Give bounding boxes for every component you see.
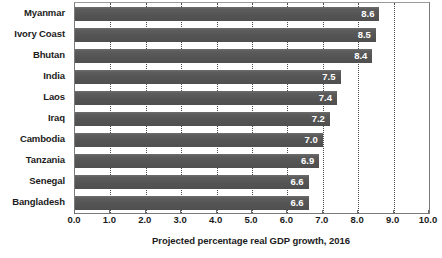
x-tick-label: 4.0 <box>209 214 222 225</box>
category-label: Bangladesh <box>0 191 70 212</box>
bar-value-label: 6.9 <box>301 156 319 166</box>
bar-value-label: 6.6 <box>290 177 308 187</box>
bar-row: 7.5 <box>75 66 429 87</box>
bar-row: 8.6 <box>75 3 429 24</box>
bar-row: 8.5 <box>75 24 429 45</box>
bar-row: 7.0 <box>75 129 429 150</box>
bar: 7.0 <box>75 133 323 147</box>
bar: 8.4 <box>75 49 372 63</box>
bar-row: 7.4 <box>75 87 429 108</box>
category-label: Bhutan <box>0 44 70 65</box>
category-label: Laos <box>0 86 70 107</box>
x-tick-label: 2.0 <box>138 214 151 225</box>
bar: 6.6 <box>75 196 309 210</box>
bar-row: 6.6 <box>75 171 429 192</box>
x-tick-label: 7.0 <box>315 214 328 225</box>
x-tick-label: 6.0 <box>280 214 293 225</box>
bar: 6.9 <box>75 154 319 168</box>
category-label: Tanzania <box>0 149 70 170</box>
category-label: Cambodia <box>0 128 70 149</box>
x-tick-label: 1.0 <box>103 214 116 225</box>
x-tick-label: 9.0 <box>386 214 399 225</box>
x-tick-label: 0.0 <box>67 214 80 225</box>
bar-row: 6.9 <box>75 150 429 171</box>
bar: 8.6 <box>75 7 379 21</box>
bar: 8.5 <box>75 28 376 42</box>
category-axis: MyanmarIvory CoastBhutanIndiaLaosIraqCam… <box>0 2 70 212</box>
plot-inner: 8.68.58.47.57.47.27.06.96.66.6 <box>75 3 429 213</box>
x-axis: 0.01.02.03.04.05.06.07.08.09.010.0 <box>74 214 428 230</box>
category-label: India <box>0 65 70 86</box>
bar-rows: 8.68.58.47.57.47.27.06.96.66.6 <box>75 3 429 213</box>
plot-area: 8.68.58.47.57.47.27.06.96.66.6 <box>74 2 430 214</box>
bar-value-label: 7.2 <box>312 114 330 124</box>
bar-value-label: 8.4 <box>354 51 372 61</box>
x-tick-label: 3.0 <box>174 214 187 225</box>
bar-value-label: 7.4 <box>319 93 337 103</box>
bar-value-label: 8.6 <box>361 9 379 19</box>
bar: 7.5 <box>75 70 341 84</box>
bar-value-label: 8.5 <box>358 30 376 40</box>
bar-value-label: 6.6 <box>290 198 308 208</box>
bar: 7.2 <box>75 112 330 126</box>
bar: 6.6 <box>75 175 309 189</box>
x-tick-label: 8.0 <box>351 214 364 225</box>
bar: 7.4 <box>75 91 337 105</box>
category-label: Iraq <box>0 107 70 128</box>
category-label: Ivory Coast <box>0 23 70 44</box>
bar-value-label: 7.0 <box>305 135 323 145</box>
bar-row: 8.4 <box>75 45 429 66</box>
category-label: Myanmar <box>0 2 70 23</box>
x-tick-label: 5.0 <box>244 214 257 225</box>
x-tick-label: 10.0 <box>419 214 438 225</box>
bar-row: 7.2 <box>75 108 429 129</box>
category-label: Senegal <box>0 170 70 191</box>
bar-row: 6.6 <box>75 192 429 213</box>
x-axis-title: Projected percentage real GDP growth, 20… <box>74 235 428 246</box>
bar-chart: MyanmarIvory CoastBhutanIndiaLaosIraqCam… <box>0 0 442 258</box>
bar-value-label: 7.5 <box>322 72 340 82</box>
